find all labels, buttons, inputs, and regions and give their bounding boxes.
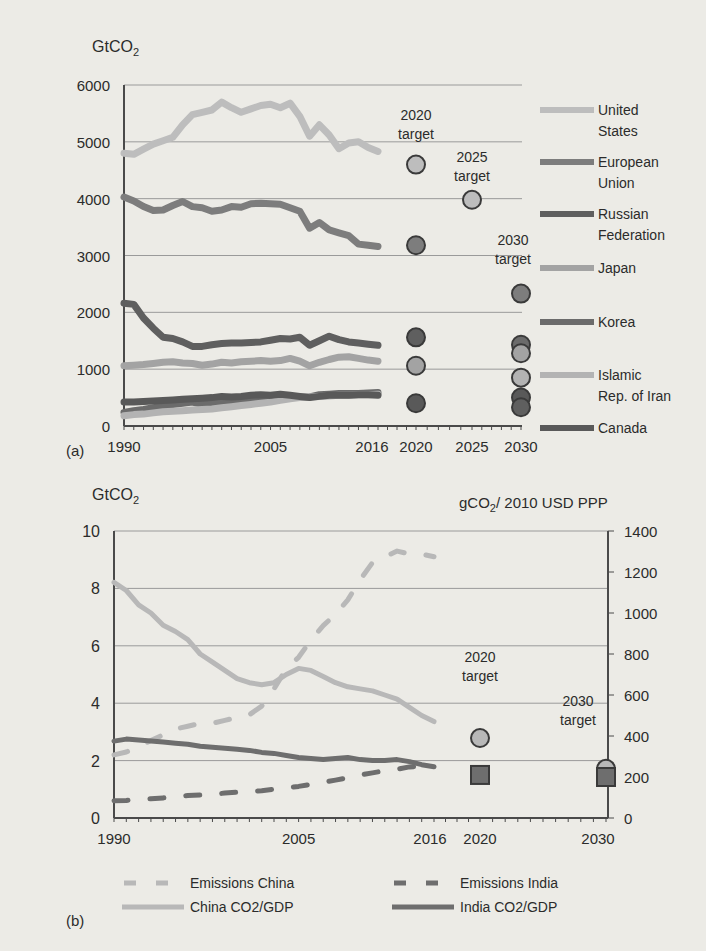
target-marker-russian-federation	[407, 328, 425, 346]
legend-label: Islamic	[598, 367, 642, 383]
legend-label: Russian	[598, 206, 649, 222]
target-label: target	[398, 126, 434, 142]
target-marker-india-co2-gdp	[471, 766, 489, 784]
target-marker-japan	[512, 344, 530, 362]
y-tick-label-left: 10	[82, 523, 100, 540]
x-tick-label: 2020	[399, 438, 432, 455]
y-tick-label: 2000	[77, 304, 110, 321]
target-marker-european-union	[512, 285, 530, 303]
y-tick-label-right: 0	[624, 810, 632, 827]
legend-item-china-co2-gdp: China CO2/GDP	[122, 899, 293, 915]
legend-item-japan: Japan	[540, 260, 636, 276]
target-label: 2020	[464, 649, 495, 665]
series-line-india-co2-gdp	[114, 739, 434, 767]
target-label: target	[462, 668, 498, 684]
y-tick-label-left: 2	[91, 753, 100, 770]
y-tick-label-right: 1000	[624, 605, 657, 622]
target-marker-japan	[407, 357, 425, 375]
x-tick-label: 2030	[504, 438, 537, 455]
legend-item-india-co2-gdp: India CO2/GDP	[392, 899, 557, 915]
panel-b-y-axis-title-right: gCO2/ 2010 USD PPP	[459, 494, 608, 514]
legend-item-european-union: EuropeanUnion	[540, 154, 659, 191]
target-label: 2030	[562, 693, 593, 709]
series-line-emissions-china	[114, 551, 434, 755]
legend-item-russian-federation: RussianFederation	[540, 206, 665, 243]
legend-label: European	[598, 154, 659, 170]
target-label: target	[560, 712, 596, 728]
target-label: 2020	[400, 107, 431, 123]
y-tick-label-right: 600	[624, 687, 649, 704]
series-line-emissions-india	[114, 765, 434, 801]
y-tick-label: 5000	[77, 134, 110, 151]
target-marker-china-co2-gdp	[471, 729, 489, 747]
y-tick-label-right: 800	[624, 646, 649, 663]
series-line-european-union	[124, 197, 378, 246]
legend-label: Korea	[598, 314, 636, 330]
y-tick-label: 1000	[77, 361, 110, 378]
legend-item-united-states: UnitedStates	[540, 102, 638, 139]
series-line-japan	[124, 357, 378, 366]
target-label: target	[495, 251, 531, 267]
panel-a-chart: 0100020003000400050006000199020052016202…	[77, 77, 672, 455]
y-tick-label-left: 4	[91, 695, 100, 712]
panel-b-y-axis-title-left: GtCO2	[92, 486, 139, 506]
legend-label: Japan	[598, 260, 636, 276]
target-label: 2030	[497, 232, 528, 248]
legend-label: Union	[598, 175, 635, 191]
y-tick-label: 4000	[77, 191, 110, 208]
legend-item-korea: Korea	[540, 314, 636, 330]
target-marker-russian-federation	[512, 398, 530, 416]
target-marker-united-states	[463, 191, 481, 209]
legend-label: China CO2/GDP	[190, 899, 293, 915]
series-line-china-co2-gdp	[114, 582, 434, 721]
x-tick-label: 2030	[581, 830, 614, 847]
target-marker-united-states	[407, 156, 425, 174]
target-label: target	[454, 168, 490, 184]
legend-label: Emissions India	[460, 875, 558, 891]
y-tick-label: 6000	[77, 77, 110, 94]
x-tick-label: 2005	[282, 830, 315, 847]
y-tick-label-left: 6	[91, 638, 100, 655]
legend-item-emissions-china: Emissions China	[124, 875, 294, 891]
y-tick-label-left: 0	[91, 810, 100, 827]
legend-label: Rep. of Iran	[598, 388, 671, 404]
legend-label: India CO2/GDP	[460, 899, 557, 915]
legend-label: United	[598, 102, 638, 118]
panel-a-label: (a)	[66, 442, 84, 459]
legend-item-emissions-india: Emissions India	[394, 875, 558, 891]
x-tick-label: 2005	[254, 438, 287, 455]
target-marker-islamic-rep-of-iran	[512, 369, 530, 387]
y-tick-label-right: 400	[624, 728, 649, 745]
target-label: 2025	[456, 149, 487, 165]
target-marker-india-co2-gdp	[597, 768, 615, 786]
y-tick-label-right: 1400	[624, 523, 657, 540]
x-tick-label: 2016	[355, 438, 388, 455]
legend-label: Emissions China	[190, 875, 294, 891]
series-line-russian-federation	[124, 303, 378, 346]
x-tick-label: 1990	[107, 438, 140, 455]
target-marker-european-union	[407, 236, 425, 254]
y-tick-label-left: 8	[91, 580, 100, 597]
y-tick-label: 0	[102, 418, 110, 435]
y-tick-label-right: 1200	[624, 564, 657, 581]
panel-a-y-axis-title: GtCO2	[92, 38, 139, 58]
legend-label: Canada	[598, 420, 647, 436]
target-marker-canada	[407, 394, 425, 412]
x-tick-label: 2025	[455, 438, 488, 455]
legend-item-canada: Canada	[540, 420, 647, 436]
legend-item-islamic-rep-of-iran: IslamicRep. of Iran	[540, 367, 671, 404]
legend-label: Federation	[598, 227, 665, 243]
y-tick-label-right: 200	[624, 769, 649, 786]
series-line-united-states	[124, 102, 378, 154]
x-tick-label: 2020	[463, 830, 496, 847]
y-tick-label: 3000	[77, 248, 110, 265]
x-tick-label: 1990	[97, 830, 130, 847]
legend-label: States	[598, 123, 638, 139]
panel-b-label: (b)	[66, 912, 84, 929]
figure-canvas: GtCO2 (a) 010002000300040005000600019902…	[0, 0, 706, 951]
panel-b-chart: 0246810020040060080010001200140019902005…	[82, 523, 657, 915]
x-tick-label: 2016	[413, 830, 446, 847]
